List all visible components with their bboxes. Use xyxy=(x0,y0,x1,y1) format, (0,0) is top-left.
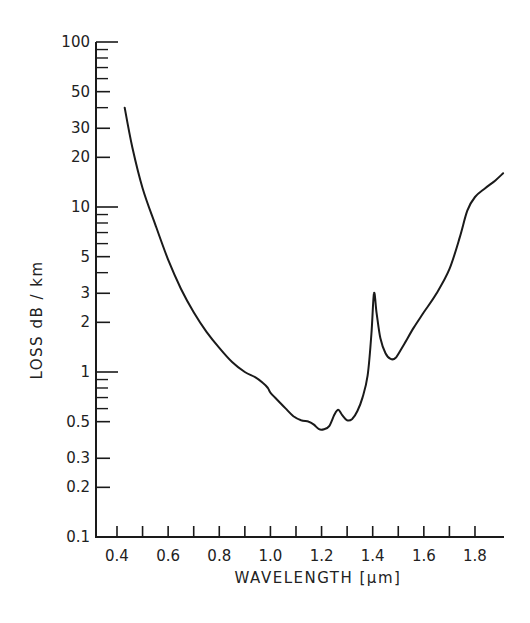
x-tick-label: 1.6 xyxy=(412,547,436,565)
y-tick-label: 0.5 xyxy=(66,413,90,431)
y-tick-label: 30 xyxy=(71,119,90,137)
y-tick-label: 0.1 xyxy=(66,528,90,546)
y-tick-label: 50 xyxy=(71,83,90,101)
y-tick-label: 0.3 xyxy=(66,449,90,467)
y-tick-label: 20 xyxy=(71,148,90,166)
y-tick-label: 100 xyxy=(61,33,90,51)
y-axis: 0.10.20.30.5123510203050100 xyxy=(61,33,118,546)
x-tick-label: 0.4 xyxy=(105,547,129,565)
x-tick-label: 1.0 xyxy=(258,547,282,565)
loss-curve xyxy=(125,108,503,430)
x-axis-title: WAVELENGTH [μm] xyxy=(235,569,402,587)
y-tick-label: 10 xyxy=(71,198,90,216)
x-tick-label: 0.8 xyxy=(207,547,231,565)
x-axis: 0.40.60.81.01.21.41.61.8 xyxy=(95,526,504,565)
y-axis-title: LOSS dB / km xyxy=(28,260,46,379)
y-tick-label: 1 xyxy=(80,363,90,381)
y-tick-label: 5 xyxy=(80,248,90,266)
y-tick-label: 3 xyxy=(80,284,90,302)
x-tick-label: 1.8 xyxy=(463,547,487,565)
y-tick-label: 0.2 xyxy=(66,478,90,496)
y-tick-label: 2 xyxy=(80,313,90,331)
loss-vs-wavelength-chart: 0.10.20.30.5123510203050100 0.40.60.81.0… xyxy=(0,0,530,623)
x-tick-label: 1.2 xyxy=(310,547,334,565)
x-tick-label: 0.6 xyxy=(156,547,180,565)
x-tick-label: 1.4 xyxy=(361,547,385,565)
